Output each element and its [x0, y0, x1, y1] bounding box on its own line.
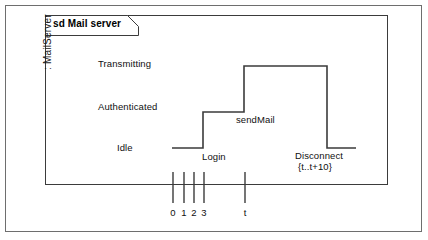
event-label-login: Login [202, 151, 226, 162]
state-label-authenticated: Authenticated [98, 101, 157, 112]
event-label-disconnect: Disconnect [295, 150, 343, 161]
tick-label-t: t [239, 207, 251, 218]
event-label-sendmail: sendMail [236, 114, 275, 125]
tick-label-3: 3 [198, 207, 210, 218]
state-label-idle: Idle [117, 142, 133, 153]
lifeline-label: : MailServer [42, 0, 53, 70]
state-label-transmitting: Transmitting [98, 58, 151, 69]
diagram-canvas: sd Mail server : MailServer Transmitting… [0, 0, 428, 240]
duration-constraint-label: {t..t+10} [298, 161, 332, 172]
sd-frame-title: sd Mail server [53, 18, 121, 29]
sd-frame-name-tab: sd Mail server [45, 15, 139, 36]
